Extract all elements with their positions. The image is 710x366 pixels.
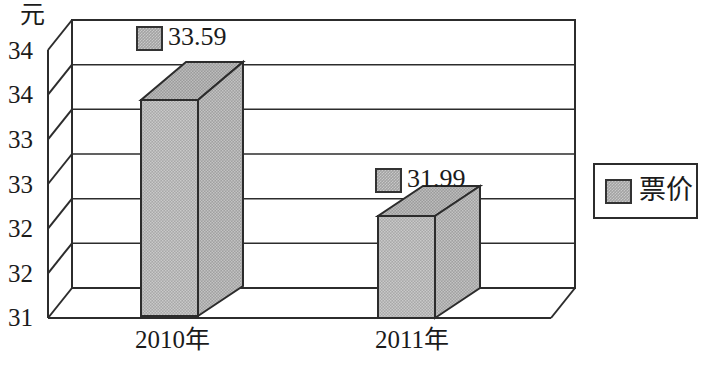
data-label-2010: 33.59 [168, 24, 227, 50]
y-tick-label-2: 33 [8, 127, 33, 152]
y-tick-label-0: 34 [8, 38, 33, 63]
bar-2010[interactable] [141, 62, 243, 316]
y-tick-label-3: 33 [8, 172, 33, 197]
chart-container: 元 34 34 33 33 32 32 31 33.59 31.99 2010年… [0, 0, 710, 366]
legend-swatch-ticket-price [605, 179, 632, 204]
y-tick-label-1: 34 [8, 82, 33, 107]
data-label-swatch-2010 [136, 26, 163, 51]
legend: 票价 [593, 163, 698, 219]
x-category-label-2011: 2011年 [375, 327, 449, 352]
legend-label-ticket-price: 票价 [639, 177, 693, 204]
y-tick-label-5: 32 [8, 261, 33, 286]
y-axis-unit-label: 元 [20, 2, 45, 27]
plot-left-wall [48, 20, 72, 318]
data-label-swatch-2011 [375, 168, 402, 193]
bar-2011[interactable] [378, 186, 480, 318]
x-category-label-2010: 2010年 [135, 327, 210, 352]
y-tick-label-4: 32 [8, 216, 33, 241]
y-tick-label-6: 31 [8, 305, 33, 330]
data-label-2011: 31.99 [407, 166, 466, 192]
plot-floor [48, 288, 575, 318]
